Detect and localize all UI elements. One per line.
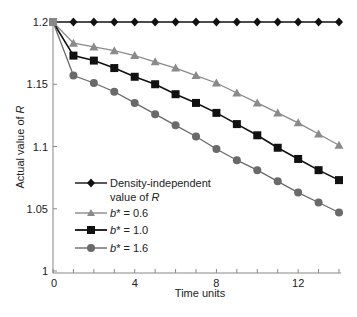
- circle-marker: [294, 189, 302, 197]
- square-marker: [294, 155, 302, 163]
- square-marker: [212, 109, 220, 117]
- circle-marker: [315, 199, 323, 207]
- legend-label: Density-independent: [110, 177, 211, 189]
- square-marker: [335, 176, 343, 184]
- diamond-marker: [110, 18, 118, 27]
- diamond-marker: [315, 18, 323, 27]
- x-tick-label: 4: [132, 277, 138, 289]
- circle-marker: [274, 177, 282, 185]
- legend-label: b* = 0.6: [110, 207, 148, 219]
- chart: 11.051.11.151.204812 Density-independent…: [0, 0, 357, 317]
- series-diamond: [53, 18, 343, 27]
- circle-marker: [172, 121, 180, 129]
- diamond-marker: [90, 18, 98, 27]
- legend-label: b* = 1.0: [110, 224, 148, 236]
- legend-item: b* = 1.0: [75, 224, 148, 236]
- diamond-marker: [253, 18, 261, 27]
- circle-marker: [69, 72, 77, 80]
- y-tick-label: 1.05: [27, 203, 48, 215]
- triangle-marker: [294, 118, 303, 126]
- diamond-marker: [192, 18, 200, 27]
- circle-marker: [212, 145, 220, 153]
- square-marker: [69, 52, 77, 60]
- circle-marker: [335, 208, 343, 216]
- start-point-marker: [49, 18, 57, 26]
- circle-marker: [253, 166, 261, 174]
- square-marker: [151, 80, 159, 88]
- square-marker: [87, 226, 95, 234]
- circle-marker: [90, 79, 98, 87]
- circle-marker: [192, 133, 200, 141]
- diamond-marker: [131, 18, 139, 27]
- square-marker: [274, 144, 282, 152]
- square-marker: [172, 90, 180, 98]
- square-marker: [131, 73, 139, 81]
- diamond-marker: [335, 18, 343, 27]
- circle-marker: [151, 110, 159, 118]
- square-marker: [253, 131, 261, 139]
- diamond-marker: [69, 18, 77, 27]
- line-chart: 11.051.11.151.204812 Density-independent…: [0, 0, 357, 317]
- triangle-marker: [253, 98, 262, 106]
- x-tick-label: 0: [51, 277, 57, 289]
- circle-marker: [233, 156, 241, 164]
- y-tick-label: 1.2: [33, 16, 48, 28]
- diamond-marker: [172, 18, 180, 27]
- diamond-marker: [151, 18, 159, 27]
- legend: Density-independentvalue of Rb* = 0.6b* …: [75, 177, 211, 254]
- legend-label-line2: value of R: [110, 191, 160, 203]
- legend-label: b* = 1.6: [110, 242, 148, 254]
- square-marker: [233, 120, 241, 128]
- y-tick-label: 1.1: [33, 141, 48, 153]
- x-tick-label: 12: [292, 277, 304, 289]
- square-marker: [192, 99, 200, 107]
- triangle-marker: [232, 88, 241, 96]
- triangle-marker: [335, 141, 344, 149]
- square-marker: [110, 64, 118, 72]
- square-marker: [315, 166, 323, 174]
- triangle-marker: [273, 108, 282, 116]
- y-axis-label: Actual value of R: [14, 105, 26, 188]
- circle-marker: [87, 244, 95, 252]
- square-marker: [90, 57, 98, 65]
- circle-marker: [110, 88, 118, 96]
- x-axis-label: Time units: [175, 287, 226, 299]
- diamond-marker: [212, 18, 220, 27]
- diamond-marker: [87, 179, 95, 188]
- diamond-marker: [233, 18, 241, 27]
- legend-item: b* = 1.6: [75, 242, 148, 254]
- y-tick-label: 1: [42, 265, 48, 277]
- triangle-marker: [314, 130, 323, 138]
- legend-item: b* = 0.6: [75, 207, 148, 219]
- circle-marker: [131, 99, 139, 107]
- y-tick-label: 1.15: [27, 78, 48, 90]
- diamond-marker: [294, 18, 302, 27]
- series-square: [53, 22, 343, 184]
- legend-item: Density-independentvalue of R: [75, 177, 211, 203]
- diamond-marker: [274, 18, 282, 27]
